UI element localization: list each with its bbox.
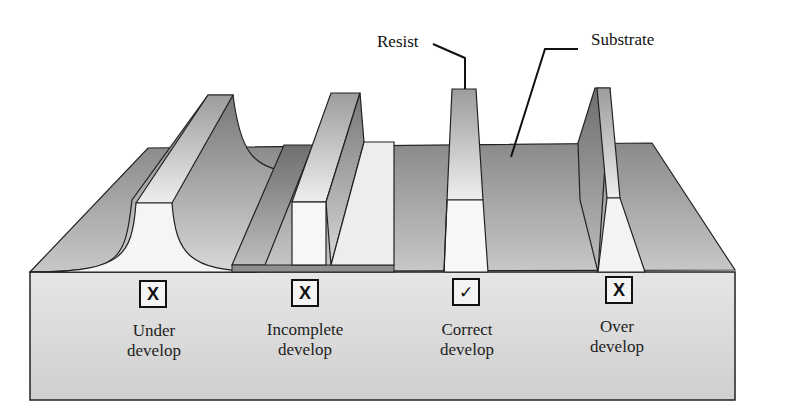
case-label-line2: develop bbox=[99, 341, 209, 361]
case-label-line1: Correct bbox=[412, 320, 522, 340]
develop-diagram: Resist Substrate X X ✓ X Under develop I… bbox=[0, 0, 798, 418]
substrate-label: Substrate bbox=[591, 30, 654, 50]
case-label-under-develop: Under develop bbox=[99, 321, 209, 361]
check-icon: ✓ bbox=[452, 278, 480, 306]
x-icon: X bbox=[291, 279, 319, 307]
substrate-callout-leader bbox=[511, 49, 578, 157]
case-label-line2: develop bbox=[412, 340, 522, 360]
case-label-line1: Under bbox=[99, 321, 209, 341]
x-icon: X bbox=[605, 276, 633, 304]
resist-correct-develop bbox=[444, 89, 488, 272]
case-label-line1: Over bbox=[562, 317, 672, 337]
resist-label: Resist bbox=[377, 32, 419, 52]
case-label-over-develop: Over develop bbox=[562, 317, 672, 357]
x-icon: X bbox=[139, 280, 167, 308]
case-label-line1: Incomplete bbox=[250, 320, 360, 340]
case-label-line2: develop bbox=[562, 337, 672, 357]
case-label-correct-develop: Correct develop bbox=[412, 320, 522, 360]
case-label-incomplete-develop: Incomplete develop bbox=[250, 320, 360, 360]
case-label-line2: develop bbox=[250, 340, 360, 360]
resist-callout-leader bbox=[433, 44, 465, 89]
